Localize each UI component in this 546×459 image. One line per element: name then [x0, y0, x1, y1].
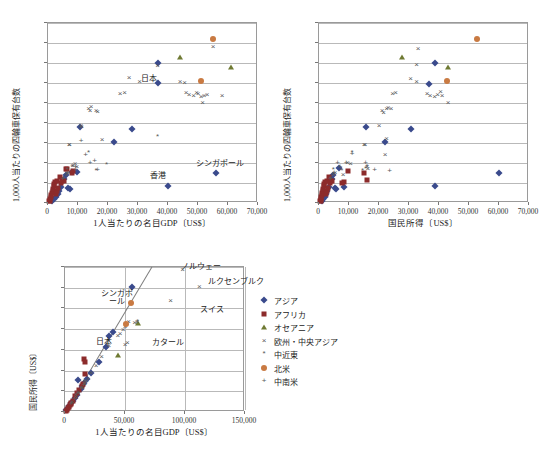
- horizontal-gridline: [48, 43, 256, 44]
- x-axis-tick-mark: [348, 202, 349, 205]
- data-point-plus: [262, 378, 267, 384]
- data-point-star: [136, 319, 139, 325]
- data-point-triangle: [228, 64, 234, 69]
- y-axis-tick-mark: [61, 307, 64, 308]
- data-point-circle: [474, 36, 480, 42]
- legend-item-x: 欧州・中央アジア: [258, 335, 338, 349]
- data-point-star: [262, 351, 265, 357]
- data-point-square: [82, 360, 87, 365]
- data-point-x: [211, 44, 216, 50]
- legend-item-label: 欧州・中央アジア: [274, 336, 338, 347]
- data-point-star: [156, 134, 159, 140]
- x-axis-tick-mark: [438, 202, 439, 205]
- data-point-x: [416, 46, 421, 52]
- data-point-x: [155, 63, 160, 69]
- legend-marker-icon: [258, 296, 271, 305]
- data-point-diamond: [333, 185, 340, 192]
- data-point-diamond: [425, 80, 432, 87]
- x-axis-tick-label: 60,000: [488, 207, 509, 216]
- horizontal-gridline: [319, 123, 527, 124]
- data-point-x: [197, 284, 202, 290]
- y-axis-tick-mark: [315, 82, 318, 83]
- y-axis-tick-mark: [61, 370, 64, 371]
- chart-annotation: 日本: [96, 335, 112, 346]
- legend-item-diamond: アジア: [258, 294, 338, 308]
- x-axis-tick-label: 60,000: [217, 207, 238, 216]
- legend-item-label: アジア: [274, 295, 298, 306]
- data-point-triangle: [399, 55, 405, 60]
- x-axis-tick-mark: [244, 411, 245, 414]
- horizontal-gridline: [319, 23, 527, 24]
- y-axis-title: 1,000人当たりの四輪車保有台数: [281, 88, 292, 202]
- y-axis-tick-mark: [44, 82, 47, 83]
- data-point-x: [389, 106, 394, 112]
- x-axis-tick-mark: [468, 202, 469, 205]
- x-axis-title: 1人当たりの名目GDP〔US$〕: [64, 425, 244, 437]
- legend-item-label: 北米: [274, 363, 290, 374]
- x-axis-title: 国民所得〔US$〕: [318, 216, 528, 228]
- y-axis-tick-mark: [61, 390, 64, 391]
- data-point-x: [408, 76, 413, 82]
- chart-annotation: シンガポール: [100, 290, 134, 307]
- x-axis-tick-label: 30,000: [398, 207, 419, 216]
- data-point-x: [348, 161, 353, 167]
- x-axis-tick-mark: [167, 202, 168, 205]
- legend-item-plus: 中南米: [258, 375, 338, 389]
- data-point-x: [79, 124, 84, 130]
- data-point-x: [100, 137, 105, 143]
- x-axis-tick-label: 20,000: [368, 207, 389, 216]
- data-point-x: [446, 100, 451, 106]
- x-axis-tick-label: 30,000: [127, 207, 148, 216]
- x-axis-tick-label: 20,000: [97, 207, 118, 216]
- y-axis-tick-mark: [44, 22, 47, 23]
- x-axis-tick-label: 50,000: [114, 416, 135, 425]
- data-point-x: [95, 109, 100, 115]
- x-axis-tick-label: 0: [62, 416, 66, 425]
- x-axis-tick-label: 0: [45, 207, 49, 216]
- x-axis-tick-label: 50,000: [458, 207, 479, 216]
- x-axis-tick-label: 70,000: [247, 207, 268, 216]
- data-point-triangle: [261, 325, 267, 330]
- data-point-diamond: [431, 59, 438, 66]
- data-point-plus: [344, 160, 349, 166]
- data-point-square: [56, 186, 61, 191]
- legend-item-label: オセアニア: [274, 322, 314, 333]
- data-point-x: [168, 298, 173, 304]
- y-axis-tick-mark: [315, 162, 318, 163]
- data-point-diamond: [128, 126, 135, 133]
- data-point-diamond: [110, 138, 117, 145]
- horizontal-gridline: [48, 23, 256, 24]
- data-point-diamond: [431, 183, 438, 190]
- x-axis-tick-label: 10,000: [338, 207, 359, 216]
- x-axis-tick-mark: [107, 202, 108, 205]
- y-axis-tick-mark: [44, 102, 47, 103]
- chart-annotation: スイス: [200, 303, 224, 314]
- x-axis-tick-mark: [197, 202, 198, 205]
- horizontal-gridline: [319, 103, 527, 104]
- horizontal-gridline: [319, 183, 527, 184]
- x-axis-tick-mark: [47, 202, 48, 205]
- horizontal-gridline: [319, 63, 527, 64]
- data-point-triangle: [177, 55, 183, 60]
- data-point-square: [365, 178, 370, 183]
- data-point-x: [414, 79, 419, 85]
- data-point-plus: [73, 164, 78, 170]
- legend-marker-icon: [258, 377, 271, 386]
- data-point-square: [262, 311, 267, 316]
- legend-item-label: アフリカ: [274, 309, 306, 320]
- data-point-plus: [372, 167, 377, 173]
- data-point-x: [205, 92, 210, 98]
- x-axis-tick-mark: [184, 411, 185, 414]
- y-axis-tick-mark: [44, 62, 47, 63]
- data-point-diamond: [212, 169, 219, 176]
- y-axis-tick-mark: [315, 142, 318, 143]
- data-point-circle: [198, 78, 204, 84]
- data-point-x: [200, 100, 205, 106]
- data-point-x: [440, 93, 445, 99]
- data-point-plus: [92, 158, 97, 164]
- data-point-x: [384, 136, 389, 142]
- data-point-x: [377, 123, 382, 129]
- data-point-circle: [210, 36, 216, 42]
- data-point-triangle: [445, 64, 451, 69]
- horizontal-gridline: [48, 103, 256, 104]
